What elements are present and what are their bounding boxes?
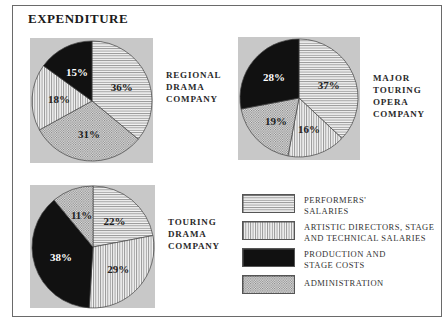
- legend-label-performers: PERFORMERS'SALARIES: [304, 195, 366, 217]
- pie-opera-label: MAJORTOURINGOPERACOMPANY: [373, 72, 425, 120]
- pie-touring-drama-label: TOURINGDRAMACOMPANY: [168, 216, 220, 252]
- pie-slice-label: 11%: [71, 209, 92, 221]
- pie-slice-label: 16%: [298, 123, 320, 135]
- pie-slice-label: 28%: [263, 71, 285, 83]
- legend-label-production: PRODUCTION ANDSTAGE COSTS: [304, 249, 386, 271]
- pie-slice-label: 38%: [50, 251, 72, 263]
- pie-slice-label: 15%: [66, 66, 88, 78]
- pie-touring-drama: 22%29%38%11%: [31, 185, 155, 309]
- chart-title: EXPENDITURE: [28, 11, 128, 27]
- pie-regional-drama: 36%31%18%15%: [31, 40, 153, 162]
- legend-swatch-administration: [242, 275, 295, 294]
- pie-slice-label: 37%: [318, 79, 340, 91]
- pie-slice-label: 29%: [107, 263, 129, 275]
- pie-slice-label: 18%: [48, 93, 70, 105]
- legend-label-artistic: ARTISTIC DIRECTORS, STAGEAND TECHNICAL S…: [304, 222, 434, 244]
- pie-slice-label: 31%: [78, 128, 100, 140]
- pie-major-touring-opera: 37%16%19%28%: [239, 38, 359, 158]
- legend-swatch-production: [242, 248, 295, 267]
- legend-label-administration: ADMINISTRATION: [304, 278, 384, 289]
- legend-swatch-artistic: [242, 221, 295, 240]
- pie-slice-label: 22%: [103, 215, 125, 227]
- pie-regional-label: REGIONALDRAMACOMPANY: [166, 69, 221, 105]
- legend-swatch-performers: [242, 194, 295, 213]
- pie-slice-label: 19%: [265, 115, 287, 127]
- pie-slice-label: 36%: [111, 81, 133, 93]
